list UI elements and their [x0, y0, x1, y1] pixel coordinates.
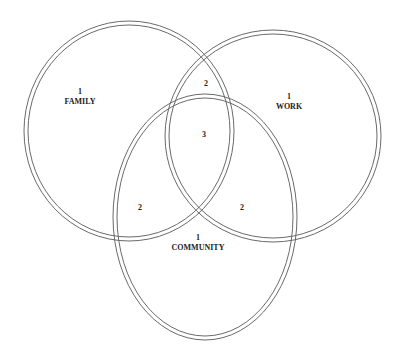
- overlap-work-community: 2: [240, 203, 244, 212]
- family-label: 1 FAMILY: [64, 87, 95, 107]
- work-label: 1 WORK: [276, 92, 302, 112]
- overlap-family-work: 2: [204, 79, 208, 88]
- work-count: 1: [276, 92, 302, 102]
- community-name: COMMUNITY: [172, 243, 225, 253]
- family-name: FAMILY: [64, 97, 95, 107]
- work-circle: [165, 30, 381, 242]
- family-count: 1: [64, 87, 95, 97]
- overlap-family-community: 2: [138, 203, 142, 212]
- community-label: 1 COMMUNITY: [172, 233, 225, 253]
- overlap-all-three: 3: [202, 130, 206, 139]
- venn-diagram: [0, 0, 399, 354]
- work-name: WORK: [276, 102, 302, 112]
- community-count: 1: [172, 233, 225, 243]
